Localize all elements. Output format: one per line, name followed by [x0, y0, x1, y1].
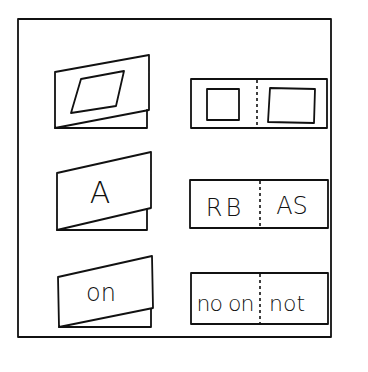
folded-card-label: A: [90, 175, 111, 210]
right-half-text: not: [269, 291, 305, 316]
unfolded-card-1: [191, 79, 327, 128]
card-front-flap: [55, 55, 149, 128]
rectangle-shape: [268, 88, 315, 123]
folded-card-3: on: [58, 256, 153, 327]
folded-card-label: on: [86, 279, 116, 307]
outer-frame: [18, 19, 331, 337]
folded-cards-diagram: A RB AS on no on not: [0, 0, 368, 372]
folded-card-2: A: [57, 152, 151, 230]
unfolded-card-2: RB AS: [190, 180, 328, 228]
square-shape: [207, 89, 239, 120]
left-half-text: RB: [206, 194, 244, 222]
unfolded-card-3: no on not: [191, 273, 328, 324]
left-half-text: no on: [197, 291, 254, 316]
right-half-text: AS: [276, 192, 308, 220]
folded-card-1: [55, 55, 149, 128]
parallelogram-shape: [71, 71, 124, 113]
